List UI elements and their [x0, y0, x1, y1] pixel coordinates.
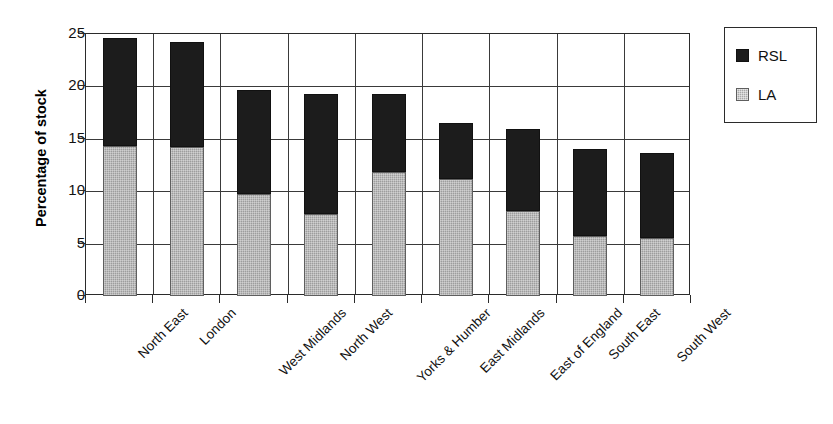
rsl-swatch	[736, 49, 749, 62]
y-axis-tick-mark	[78, 190, 85, 191]
x-axis-category-label: South West	[675, 306, 734, 365]
la-swatch	[736, 88, 749, 101]
x-axis-category-label: North East	[135, 306, 190, 361]
gridline-vertical	[355, 34, 356, 294]
x-axis-category-label: Yorks & Humber	[414, 306, 493, 385]
x-axis-tick-mark	[421, 295, 422, 303]
bar-segment-rsl	[237, 90, 271, 195]
bar-segment-la	[640, 238, 674, 296]
bar-segment-rsl	[640, 153, 674, 238]
gridline-vertical	[288, 34, 289, 294]
bar-segment-la	[103, 146, 137, 296]
bar-segment-la	[170, 147, 204, 296]
x-axis-tick-mark	[354, 295, 355, 303]
bar-segment-rsl	[372, 94, 406, 173]
y-axis-tick-mark	[78, 295, 85, 296]
bar-segment-rsl	[304, 94, 338, 215]
y-axis-tick-labels: 0510152025	[38, 33, 85, 295]
x-axis-tick-mark	[85, 295, 86, 303]
legend-item-rsl[interactable]: RSL	[736, 48, 787, 63]
gridline-vertical	[153, 34, 154, 294]
x-axis-category-label: West Midlands	[277, 306, 349, 378]
x-axis-tick-mark	[287, 295, 288, 303]
x-axis-tick-mark	[690, 295, 691, 303]
x-axis-category-label: London	[197, 306, 239, 348]
bar-segment-la	[439, 179, 473, 296]
stacked-bar-chart: Percentage of stock 0510152025 North Eas…	[0, 0, 833, 424]
x-axis-tick-mark	[623, 295, 624, 303]
y-axis-tick-mark	[78, 33, 85, 34]
x-axis-tick-mark	[488, 295, 489, 303]
gridline-vertical	[624, 34, 625, 294]
bar-segment-rsl	[103, 38, 137, 146]
bar-segment-rsl	[170, 42, 204, 147]
bar-segment-la	[372, 172, 406, 296]
plot-area	[85, 33, 690, 295]
y-axis-tick-mark	[78, 243, 85, 244]
bar-segment-la	[573, 236, 607, 296]
gridline-vertical	[422, 34, 423, 294]
legend-label: RSL	[758, 48, 787, 63]
bar-segment-la	[304, 214, 338, 296]
gridline-vertical	[557, 34, 558, 294]
bar-segment-rsl	[573, 149, 607, 236]
bar-segment-rsl	[439, 123, 473, 179]
x-axis-tick-mark	[556, 295, 557, 303]
legend-label: LA	[758, 87, 776, 102]
y-axis-tick-mark	[78, 85, 85, 86]
gridline-vertical	[220, 34, 221, 294]
bar-segment-rsl	[506, 129, 540, 211]
gridline-vertical	[489, 34, 490, 294]
chart-legend: RSLLA	[724, 27, 817, 123]
x-axis-tick-mark	[219, 295, 220, 303]
bar-segment-la	[237, 194, 271, 296]
legend-item-la[interactable]: LA	[736, 87, 776, 102]
bar-segment-la	[506, 211, 540, 296]
x-axis-tick-mark	[152, 295, 153, 303]
y-axis-tick-mark	[78, 138, 85, 139]
